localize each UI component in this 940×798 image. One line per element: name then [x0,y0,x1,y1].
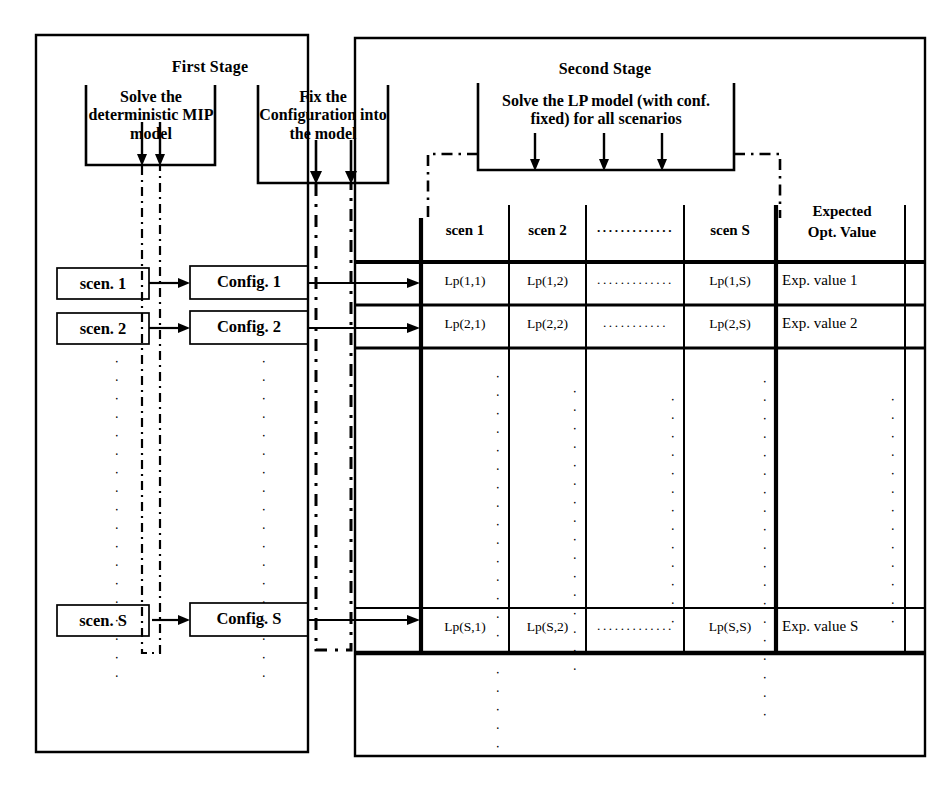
lp-arrow-1 [530,133,540,171]
arrow-config1-to-table [308,278,420,288]
second-stage-title: Second Stage [520,60,690,79]
scenario-label-2: scen. 2 [57,319,149,338]
table-header-scen-1: scen 1 [421,222,509,239]
table-cell-r2-expected: Exp. value 2 [782,315,904,333]
table-cell-r2c1: Lp(2,1) [421,316,509,332]
table-cell-r1cS: Lp(1,S) [684,273,776,289]
table-cell-rSc1: Lp(S,1) [421,619,509,635]
table-cell-r2-ellipsis: ··········· [586,318,684,333]
scenario-vertical-ellipsis: . . . . . . . . . . . . . . . . . . [78,360,128,684]
table-expected-vertical-ellipsis: . . . . . . . . . . . . . [780,398,904,629]
table-header-ellipsis: ············· [586,224,684,239]
arrow-config2-to-table [308,323,420,333]
table-cell-r1-expected: Exp. value 1 [782,272,904,290]
scenario-label-1: scen. 1 [57,274,149,293]
lp-arrow-3 [657,133,667,171]
first-stage-title: First Stage [150,58,270,77]
fix-config-process-label: Fix the Configuration into the model [259,88,387,143]
lp-arrow-2 [599,133,609,171]
table-header-expected-line1: Expected [780,203,904,220]
table-cell-r1-ellipsis: ············· [586,275,684,290]
table-col3-vertical-ellipsis: . . . . . . . . . . . . . [586,398,684,629]
fix-arrow-1 [310,140,322,184]
arrow-scenS-to-configS [152,615,190,625]
table-header-expected-line2: Opt. Value [780,224,904,241]
config-label-2: Config. 2 [190,317,308,336]
table-colS-vertical-ellipsis: . . . . . . . . . . . . . . . . . . . [684,380,776,722]
arrow-scen2-to-config2 [149,323,190,333]
lp-dashdot-left-leg [428,154,478,218]
table-cell-rScS: Lp(S,S) [684,619,776,635]
fix-config-dashdot-bracket [316,184,351,650]
table-cell-r1c1: Lp(1,1) [421,273,509,289]
config-label-1: Config. 1 [190,272,308,291]
table-col1-vertical-ellipsis: . . . . . . . . . . . . . . . . . . . . … [421,375,509,754]
table-cell-rSc2: Lp(S,2) [509,619,586,635]
mip-dashdot-bracket [142,166,160,653]
table-header-scen-2: scen 2 [509,222,586,239]
table-cell-rS-ellipsis: ············· [586,621,684,636]
table-cell-r2c2: Lp(2,2) [509,316,586,332]
table-cell-rS-expected: Exp. value S [782,618,904,636]
arrow-configS-to-table [308,615,420,625]
arrow-scen1-to-config1 [149,278,190,288]
diagram-canvas: First Stage Second Stage Solve the deter… [0,0,940,798]
table-cell-r2cS: Lp(2,S) [684,316,776,332]
mip-process-label: Solve the deterministic MIP model [88,88,214,143]
table-header-scen-S: scen S [684,222,776,239]
table-cell-r1c2: Lp(1,2) [509,273,586,289]
config-vertical-ellipsis: . . . . . . . . . . . . . . . . . . [225,360,275,684]
lp-dashdot-right-leg [734,154,780,218]
lp-process-label: Solve the LP model (with conf. fixed) fo… [482,92,730,129]
